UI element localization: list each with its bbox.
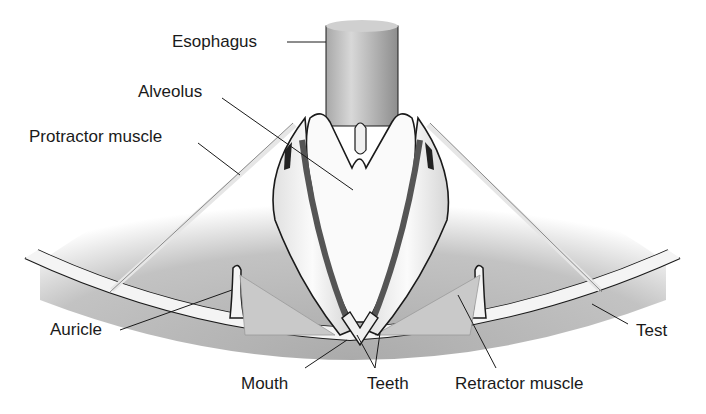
label-retractor-muscle: Retractor muscle bbox=[455, 375, 583, 392]
label-mouth: Mouth bbox=[241, 375, 288, 392]
label-auricle: Auricle bbox=[50, 321, 102, 338]
label-teeth: Teeth bbox=[367, 375, 409, 392]
lantern-diagram: Esophagus Alveolus Protractor muscle Aur… bbox=[0, 0, 706, 414]
lantern-illustration bbox=[0, 0, 706, 414]
label-test: Test bbox=[636, 322, 667, 339]
label-esophagus: Esophagus bbox=[172, 33, 257, 50]
label-alveolus: Alveolus bbox=[138, 83, 202, 100]
esophagus-tube bbox=[326, 26, 398, 126]
label-protractor-muscle: Protractor muscle bbox=[29, 128, 162, 145]
